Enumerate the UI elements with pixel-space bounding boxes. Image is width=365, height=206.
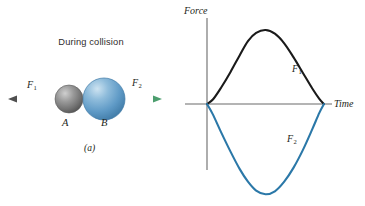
panel-a-caption: (a): [84, 143, 95, 153]
curve-label-f2: F2: [287, 128, 296, 146]
curve-label-f1: F1: [292, 58, 301, 76]
physics-figure: During collision: [0, 0, 365, 206]
curve-f2: [207, 104, 324, 194]
force-arrowhead-right: [153, 95, 162, 102]
force-arrowhead-left: [8, 95, 17, 102]
collision-illustration: [0, 0, 182, 206]
force-label-f1-panel-a: F1: [27, 79, 36, 90]
y-axis-title: Force: [184, 5, 208, 16]
sphere-b-label: B: [101, 117, 107, 128]
curve-f1: [207, 30, 324, 104]
sphere-a-label: A: [62, 117, 68, 128]
x-axis-title: Time: [334, 98, 353, 109]
panel-a-collision-diagram: During collision: [0, 0, 182, 206]
panel-b-force-time-graph: Force Time F1 F2 (b): [182, 0, 365, 206]
force-label-f2-panel-a: F2: [132, 77, 141, 88]
